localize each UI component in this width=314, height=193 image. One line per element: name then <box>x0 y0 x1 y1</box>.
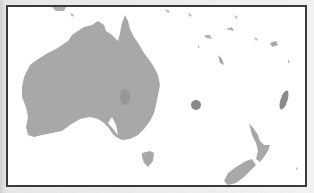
new-caledonia-marker[interactable] <box>278 89 291 110</box>
tasman-sea-marker[interactable] <box>191 100 201 110</box>
nz-south-island[interactable] <box>224 159 256 185</box>
png-tip <box>52 7 74 17</box>
australia-landmass[interactable] <box>22 15 160 140</box>
solomon-islands <box>204 27 234 39</box>
fiji-islands <box>270 41 278 47</box>
map-frame: Australia and Oceania outline map <box>6 5 307 187</box>
scattered-islets <box>164 9 298 170</box>
central-australia-marker[interactable] <box>120 89 130 105</box>
nz-north-island[interactable] <box>249 123 270 162</box>
vanuatu-islands <box>218 55 224 65</box>
map-canvas <box>8 7 307 187</box>
tasmania-island[interactable] <box>142 151 154 167</box>
